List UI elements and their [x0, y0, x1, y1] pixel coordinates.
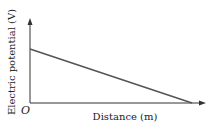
y-axis-label: Electric potential (V): [6, 9, 17, 115]
origin-label: O: [21, 104, 30, 117]
x-axis-arrow-icon: [199, 101, 206, 106]
y-axis-arrow-icon: [28, 18, 33, 25]
potential-line: [30, 49, 192, 103]
x-axis-label: Distance (m): [93, 111, 158, 122]
chart: O Distance (m) Electric potential (V): [0, 0, 212, 128]
